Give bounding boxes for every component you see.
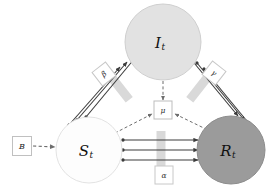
edge-birth-to-susceptible [33, 146, 55, 147]
node-infected[interactable]: It [125, 4, 201, 80]
edge-susceptible-to-mu [115, 114, 152, 133]
param-box-mu[interactable]: μ [154, 101, 172, 119]
diagram-svg: It St Rt β γ μ [0, 0, 268, 193]
node-susceptible[interactable]: St [56, 117, 122, 183]
param-box-alpha[interactable]: α [155, 166, 173, 184]
param-box-birth[interactable]: B [13, 137, 32, 156]
diagram-canvas: It St Rt β γ μ [0, 0, 268, 193]
node-recovered[interactable]: Rt [197, 116, 265, 184]
